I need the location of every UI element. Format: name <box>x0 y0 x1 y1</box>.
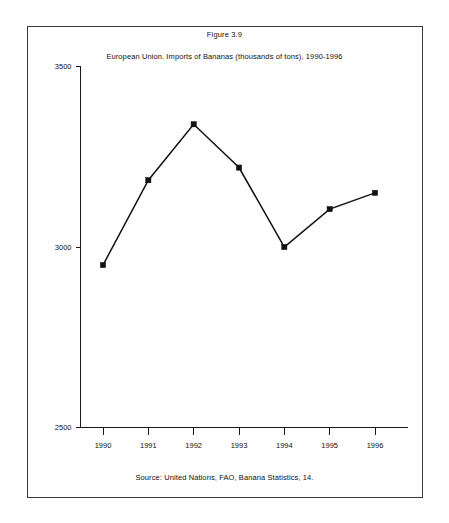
x-axis-tick-label: 1995 <box>321 441 338 450</box>
x-axis-tick-label: 1994 <box>276 441 293 450</box>
y-axis-tick-label: 3500 <box>55 62 72 71</box>
x-axis-tick-label: 1991 <box>140 441 157 450</box>
x-axis-tick-label: 1990 <box>95 441 112 450</box>
data-point-marker <box>236 165 241 170</box>
axis-spine <box>81 67 408 428</box>
data-point-marker <box>146 178 151 183</box>
data-point-marker <box>372 190 377 195</box>
data-point-markers <box>100 122 377 268</box>
chart-axes <box>81 67 408 428</box>
data-point-marker <box>191 122 196 127</box>
data-point-marker <box>100 262 105 267</box>
line-chart-svg: 250030003500 199019911992199319941995199… <box>0 0 449 523</box>
y-axis-tick-label: 3000 <box>55 243 72 252</box>
x-axis-tick-label: 1992 <box>185 441 202 450</box>
data-point-marker <box>327 207 332 212</box>
x-axis-ticks <box>103 428 375 435</box>
x-axis-tick-labels: 1990199119921993199419951996 <box>95 441 384 450</box>
x-axis-tick-label: 1996 <box>367 441 384 450</box>
y-axis-ticks <box>76 67 81 428</box>
figure-root: Figure 3.9 European Union. Imports of Ba… <box>0 0 449 523</box>
data-point-marker <box>282 244 287 249</box>
figure-source-note: Source: United Nations, FAO, Banana Stat… <box>0 473 449 482</box>
y-axis-tick-label: 2500 <box>55 423 72 432</box>
x-axis-tick-label: 1993 <box>231 441 248 450</box>
series-polyline <box>103 124 375 265</box>
data-series-line <box>103 124 375 265</box>
y-axis-tick-labels: 250030003500 <box>55 62 72 432</box>
plot-area: 250030003500 199019911992199319941995199… <box>0 0 449 523</box>
